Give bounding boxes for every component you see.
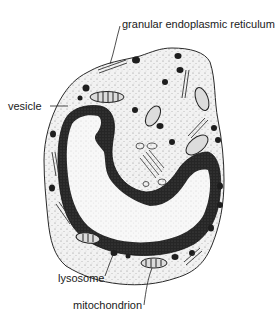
label-granular-endoplasmic-reticulum: granular endoplasmic reticulum xyxy=(122,18,275,30)
label-lysosome: lysosome xyxy=(58,272,104,284)
leader-granular-er xyxy=(110,26,120,64)
label-vesicle: vesicle xyxy=(8,100,42,112)
cell-diagram xyxy=(0,0,280,323)
label-mitochondrion: mitochondrion xyxy=(73,299,142,311)
